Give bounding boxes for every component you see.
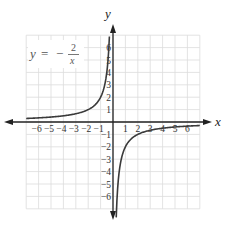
y-tick-label: −5 [101, 180, 111, 190]
y-tick-label: 1 [106, 105, 111, 115]
x-tick-label: 1 [123, 124, 128, 134]
y-tick-label: −6 [101, 192, 111, 202]
x-tick-label: 3 [148, 124, 153, 134]
x-tick-label: −4 [56, 124, 66, 134]
x-axis-left-arrow-icon [4, 119, 13, 125]
y-tick-label: 2 [106, 93, 111, 103]
y-tick-label: −3 [101, 155, 111, 165]
y-tick-label: −1 [101, 130, 111, 140]
equation-equals: = [41, 46, 48, 61]
y-tick-label: −2 [101, 142, 111, 152]
y-axis-down-arrow-icon [110, 211, 116, 220]
equation-annotation: y = − 2 x [28, 40, 84, 68]
x-tick-label: −3 [69, 124, 79, 134]
x-tick-label: −2 [81, 124, 91, 134]
equation-numerator: 2 [71, 42, 76, 53]
x-axis-right-arrow-icon [203, 119, 212, 125]
y-tick-label: −4 [101, 167, 111, 177]
x-tick-label: −6 [32, 124, 42, 134]
x-tick-label: 5 [173, 124, 178, 134]
y-tick-label: 3 [106, 80, 111, 90]
x-tick-label: 2 [135, 124, 140, 134]
equation-sign: − [56, 46, 63, 61]
y-axis-label: y [103, 6, 111, 21]
x-tick-label: −5 [44, 124, 54, 134]
equation-denominator: x [69, 55, 75, 66]
y-axis-up-arrow-icon [110, 24, 116, 33]
x-axis-label: x [214, 114, 221, 129]
hyperbola-graph: −6−5−4−3−2−1123456654321−1−2−3−4−5−6 x y… [0, 0, 230, 226]
equation-lhs: y [28, 46, 36, 61]
